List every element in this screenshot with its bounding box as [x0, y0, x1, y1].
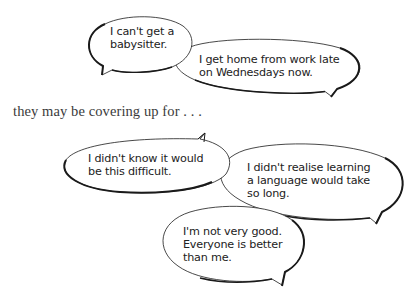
bubble-text-not-good: I'm not very good. Everyone is better th… — [183, 225, 282, 264]
bubble-text-difficult: I didn't know it would be this difficult… — [88, 152, 203, 178]
narration-text: they may be covering up for . . . — [13, 103, 202, 120]
bubble-text-so-long: I didn't realise learning a language wou… — [247, 161, 371, 200]
bubble-text-home-late: I get home from work late on Wednesdays … — [199, 53, 340, 79]
bubble-text-babysitter: I can't get a babysitter. — [110, 25, 174, 51]
